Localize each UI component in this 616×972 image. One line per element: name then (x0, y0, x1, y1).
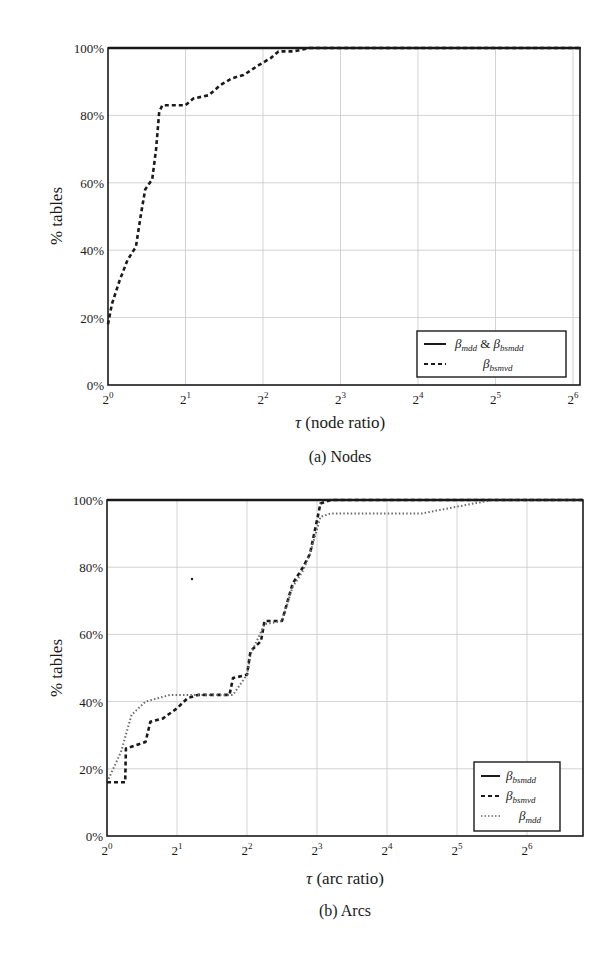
arcs-legend: βbsmdd βbsmvd βmdd (474, 762, 560, 831)
nodes-y-axis-label: % tables (47, 187, 66, 245)
arcs-x-ticks: 20212223242526 (102, 841, 534, 858)
x-tick-label: 25 (452, 841, 464, 858)
y-tick-label: 100% (74, 41, 105, 56)
x-tick-label: 25 (490, 390, 502, 407)
y-tick-label: 0% (86, 829, 104, 844)
x-tick-label: 24 (413, 390, 425, 407)
arcs-y-ticks: 0%20%40%60%80%100% (73, 493, 104, 844)
arcs-x-axis-label-text: (arc ratio) (312, 869, 384, 888)
x-tick-label: 23 (335, 390, 347, 407)
y-tick-label: 60% (79, 627, 103, 642)
series-line-dashed (107, 500, 583, 782)
x-tick-label: 22 (242, 841, 253, 858)
y-tick-label: 80% (80, 108, 104, 123)
series-line-dotted (107, 500, 583, 782)
y-tick-label: 80% (79, 560, 103, 575)
arcs-chart: 0%20%40%60%80%100% 20212223242526 % tabl… (0, 480, 616, 972)
y-tick-label: 0% (87, 378, 105, 393)
y-tick-label: 20% (80, 311, 104, 326)
x-tick-label: 20 (102, 841, 114, 858)
nodes-series (108, 48, 581, 324)
arcs-y-axis-label: % tables (47, 639, 66, 697)
y-tick-label: 40% (79, 695, 103, 710)
figure-nodes: 0%20%40%60%80%100% 20212223242526 % tabl… (0, 0, 616, 480)
arcs-x-axis-label: τ (arc ratio) (306, 869, 384, 888)
x-tick-label: 24 (382, 841, 394, 858)
nodes-caption: (a) Nodes (309, 448, 372, 466)
x-tick-label: 20 (103, 390, 115, 407)
figure-arcs: 0%20%40%60%80%100% 20212223242526 % tabl… (0, 480, 616, 972)
nodes-chart: 0%20%40%60%80%100% 20212223242526 % tabl… (0, 0, 616, 480)
x-tick-label: 21 (180, 390, 191, 407)
stray-dot (191, 578, 193, 580)
y-tick-label: 100% (73, 493, 104, 508)
x-tick-label: 21 (172, 841, 183, 858)
arcs-caption: (b) Arcs (319, 902, 371, 920)
series-line-dashed (108, 48, 581, 324)
y-tick-label: 40% (80, 243, 104, 258)
arcs-series (107, 500, 583, 782)
nodes-x-axis-label-text: (node ratio) (301, 413, 385, 432)
y-tick-label: 20% (79, 762, 103, 777)
x-tick-label: 22 (258, 390, 269, 407)
nodes-y-ticks: 0%20%40%60%80%100% (74, 41, 105, 393)
y-tick-label: 60% (80, 176, 104, 191)
nodes-x-axis-label: τ (node ratio) (295, 413, 385, 432)
nodes-legend: βmdd & βbsmdd βbsmvd (417, 331, 566, 377)
x-tick-label: 26 (522, 841, 534, 858)
nodes-x-ticks: 20212223242526 (103, 390, 580, 407)
x-tick-label: 23 (312, 841, 324, 858)
x-tick-label: 26 (568, 390, 580, 407)
